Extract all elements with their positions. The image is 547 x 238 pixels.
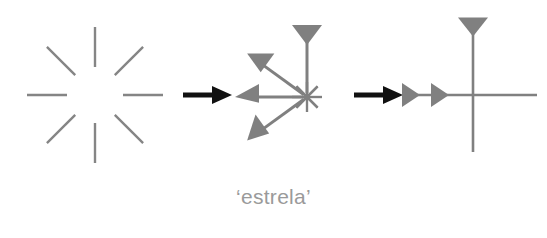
top-funnel-triangle: [458, 18, 488, 37]
transform-arrow-2: [354, 86, 403, 104]
asterisk-ray-group: [235, 25, 322, 141]
starburst-ray-5: [47, 115, 75, 143]
starburst-rays: [27, 27, 163, 163]
cross-marker-group: [402, 18, 488, 108]
left-outer-triangle: [402, 83, 420, 107]
transform-arrow-1: [183, 86, 232, 104]
figure-starburst: [27, 27, 163, 163]
asterisk-hub-strokes: [292, 82, 322, 112]
ray-up-arrowhead: [292, 25, 322, 45]
figure-cross-with-arrows: [402, 18, 537, 153]
caption-text: ‘estrela’: [236, 185, 311, 208]
figure-page: ‘estrela’: [0, 0, 547, 238]
transform-arrow-1-head: [212, 86, 232, 104]
left-inner-triangle: [431, 83, 449, 107]
transform-arrow-2-head: [383, 86, 403, 104]
figure-caption: ‘estrela’: [0, 186, 547, 207]
starburst-ray-7: [115, 115, 143, 143]
starburst-ray-1: [115, 47, 143, 75]
starburst-ray-3: [47, 47, 75, 75]
ray-left-arrowhead: [235, 84, 259, 103]
figure-asterisk-with-arrows: [235, 25, 322, 141]
